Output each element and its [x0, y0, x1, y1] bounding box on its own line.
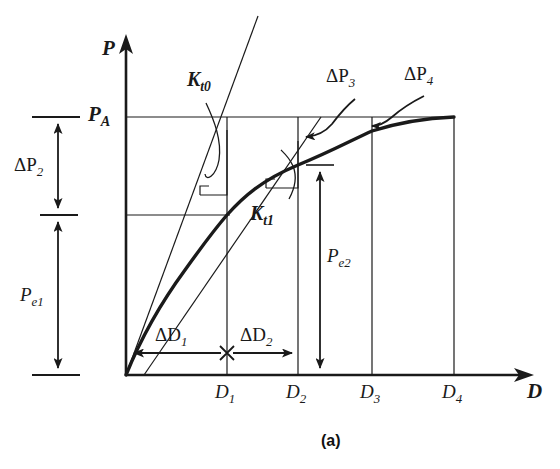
pe2-base: P	[327, 245, 339, 266]
figure-container: P D PA ΔP2 Pe1 Pe2 ΔP3 ΔP4 ΔD1 ΔD2 Kt0 K…	[0, 0, 560, 469]
x-axis	[126, 368, 534, 382]
x-tick-label-d2: D2	[286, 382, 306, 406]
x-axis-label: D	[527, 381, 542, 402]
d3-base: D	[360, 381, 374, 402]
d1-base: D	[215, 381, 229, 402]
delta-p4-base: ΔP	[404, 63, 427, 84]
kt1-base: K	[250, 202, 263, 224]
y-axis-label: P	[102, 38, 115, 59]
pa-base: P	[88, 102, 101, 126]
d2-base: D	[286, 381, 300, 402]
kt1-sub: t1	[263, 213, 274, 228]
kt0-base: K	[187, 68, 200, 90]
pe1-sub: e1	[32, 294, 44, 309]
d2-sub: 2	[300, 391, 306, 406]
x-tick-label-d1: D1	[215, 382, 235, 406]
pa-sub: A	[101, 113, 111, 129]
d1-sub: 1	[229, 391, 235, 406]
y-axis	[119, 34, 133, 375]
delta-p4-sub: 4	[427, 73, 433, 88]
pe1-label: Pe1	[20, 285, 44, 309]
kt0-sub: t0	[200, 79, 211, 94]
pe2-sub: e2	[339, 255, 351, 270]
pa-value-label: PA	[88, 104, 110, 128]
delta-p2-base: ΔP	[14, 154, 37, 175]
d4-sub: 4	[456, 391, 462, 406]
delta-p3-leader-arrow	[306, 99, 355, 137]
delta-d1-label: ΔD1	[155, 325, 187, 349]
plot-svg	[0, 0, 560, 469]
kt0-label: Kt0	[187, 69, 211, 94]
kt1-label: Kt1	[250, 203, 274, 228]
kt1-slope-triangle	[266, 141, 298, 188]
x-tick-label-d3: D3	[360, 382, 380, 406]
pe2-label: Pe2	[327, 246, 351, 270]
figure-caption: (a)	[321, 432, 341, 450]
delta-d2-label: ΔD2	[240, 325, 272, 349]
x-tick-label-d4: D4	[442, 382, 462, 406]
pe1-base: P	[20, 284, 32, 305]
delta-p2-label: ΔP2	[14, 155, 43, 179]
d4-base: D	[442, 381, 456, 402]
delta-p3-sub: 3	[349, 75, 355, 90]
d3-sub: 3	[374, 391, 380, 406]
delta-p3-label: ΔP3	[326, 66, 355, 90]
delta-p3-base: ΔP	[326, 65, 349, 86]
delta-d1-base: ΔD	[155, 324, 181, 345]
delta-p4-label: ΔP4	[404, 64, 433, 88]
delta-d2-sub: 2	[266, 334, 272, 349]
delta-p2-sub: 2	[37, 164, 43, 179]
delta-d1-sub: 1	[181, 334, 187, 349]
delta-d2-base: ΔD	[240, 324, 266, 345]
